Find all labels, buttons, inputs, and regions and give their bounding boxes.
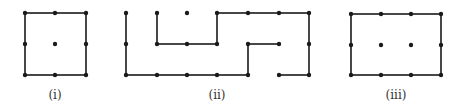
grid-dot (409, 73, 413, 77)
grid-dot (246, 42, 250, 46)
figure-iii-label: (iii) (386, 88, 407, 102)
grid-dot (124, 42, 128, 46)
grid-dot (246, 11, 250, 15)
grid-dot (307, 73, 311, 77)
grid-dot (439, 12, 443, 16)
grid-dot (53, 11, 57, 15)
grid-dot (349, 12, 353, 16)
grid-dot (84, 42, 88, 46)
grid-dot (124, 11, 128, 15)
grid-dot (277, 42, 281, 46)
grid-dot (379, 43, 383, 47)
grid-dot (349, 43, 353, 47)
grid-dot (439, 73, 443, 77)
figure-i (23, 11, 88, 77)
figure-ii-label: (ii) (208, 88, 225, 102)
grid-dot (307, 42, 311, 46)
figure-iii (349, 12, 443, 77)
grid-dot (409, 12, 413, 16)
grid-dot (349, 73, 353, 77)
grid-dot (23, 73, 27, 77)
grid-dot (185, 42, 189, 46)
grid-dot (215, 42, 219, 46)
grid-dot (246, 73, 250, 77)
figure-ii (124, 11, 311, 77)
grid-dot (439, 43, 443, 47)
grid-dot (53, 73, 57, 77)
grid-dot (185, 11, 189, 15)
grid-dot (185, 73, 189, 77)
grid-dot (155, 42, 159, 46)
figure-i-label: (i) (48, 88, 61, 102)
grid-dot (307, 11, 311, 15)
grid-dot (215, 11, 219, 15)
grid-dot (23, 42, 27, 46)
grid-dot (155, 73, 159, 77)
grid-dot (84, 11, 88, 15)
grid-dot (215, 73, 219, 77)
grid-dot (53, 42, 57, 46)
dot-grid-diagrams: (i) (ii) (iii) (0, 0, 465, 108)
grid-dot (379, 73, 383, 77)
grid-dot (379, 12, 383, 16)
grid-dot (277, 73, 281, 77)
grid-dot (409, 43, 413, 47)
grid-dot (84, 73, 88, 77)
grid-dot (124, 73, 128, 77)
grid-dot (23, 11, 27, 15)
grid-dot (155, 11, 159, 15)
grid-dot (277, 11, 281, 15)
